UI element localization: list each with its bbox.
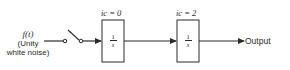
initial-condition-1: ic = 0 [101,9,121,18]
input-label: f(t) (Unity white noise) [2,30,54,57]
numerator: 1 [177,33,199,40]
output-label: Output [245,37,271,46]
input-description-line2: white noise) [7,48,50,57]
denominator: s [102,41,124,48]
switch-blade [68,30,79,40]
input-description-line1: (Unity [18,39,39,48]
transfer-function-2: 1 s [177,33,199,48]
initial-condition-2: ic = 2 [176,9,196,18]
numerator: 1 [102,33,124,40]
denominator: s [177,41,199,48]
input-symbol: f(t) [23,29,34,39]
switch-terminal-right [79,39,83,43]
transfer-function-1: 1 s [102,33,124,48]
switch-terminal-left [63,39,67,43]
